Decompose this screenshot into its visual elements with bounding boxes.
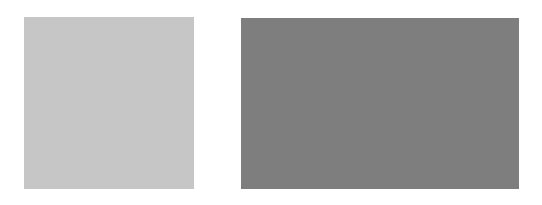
dark-gray-swatch	[241, 18, 519, 189]
light-gray-swatch	[24, 17, 194, 189]
